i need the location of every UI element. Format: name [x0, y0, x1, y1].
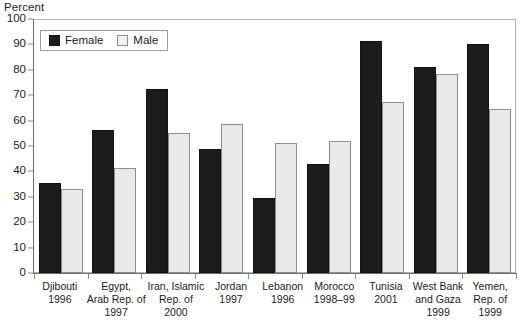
bar-female[interactable]	[146, 89, 168, 273]
x-axis-tick-mark	[248, 274, 249, 279]
x-axis-tick-mark	[195, 274, 196, 279]
bar-group	[248, 19, 302, 273]
x-axis-tick-mark	[516, 274, 517, 279]
legend-swatch-female-icon	[49, 35, 60, 46]
x-axis-tick-mark	[355, 274, 356, 279]
x-axis-category-label-line: 1997	[87, 306, 146, 319]
legend: Female Male	[40, 30, 168, 51]
x-axis-ticks	[34, 274, 516, 279]
bars-container	[34, 19, 516, 273]
y-axis-tick-label: 30	[13, 188, 26, 202]
y-axis-tick-label: 60	[13, 112, 26, 126]
y-axis-tick-label: 100	[7, 11, 26, 25]
bar-group	[34, 19, 88, 273]
y-axis-tick-label: 0	[20, 265, 26, 279]
legend-item-female[interactable]: Female	[49, 34, 103, 47]
bar-female[interactable]	[360, 41, 382, 273]
bar-male[interactable]	[489, 109, 511, 273]
bar-female[interactable]	[414, 67, 436, 273]
x-axis-category-label-line: Rep. of	[465, 293, 515, 306]
bar-male[interactable]	[114, 168, 136, 273]
bar-chart: Percent 0102030405060708090100 Djibouti1…	[0, 0, 527, 333]
bar-female[interactable]	[307, 164, 329, 273]
x-axis-tick-mark	[302, 274, 303, 279]
bar-group	[302, 19, 356, 273]
bar-group	[463, 19, 517, 273]
x-axis-category-label-line: Lebanon	[258, 280, 308, 293]
x-axis-labels: Djibouti1996Egypt,Arab Rep. of1997Iran, …	[34, 280, 516, 319]
x-axis-tick-mark	[462, 274, 463, 279]
x-axis-category-label-line: Djibouti	[35, 280, 85, 293]
x-axis-category-label: West Bankand Gaza1999	[412, 280, 465, 319]
bar-female[interactable]	[253, 198, 275, 273]
bar-group	[88, 19, 142, 273]
x-axis-category-label-line: Iran, Islamic	[148, 280, 205, 293]
x-axis-category-label-line: 2001	[361, 293, 411, 306]
x-axis-category-label: Lebanon1996	[257, 280, 309, 319]
bar-female[interactable]	[467, 44, 489, 273]
bar-male[interactable]	[275, 143, 297, 273]
y-axis-tick-label: 20	[13, 214, 26, 228]
x-axis-category-label-line: Egypt,	[87, 280, 146, 293]
x-axis-category-label-line: 1996	[35, 293, 85, 306]
bar-group	[409, 19, 463, 273]
bar-male[interactable]	[329, 141, 351, 273]
x-axis-category-label-line: 1997	[206, 293, 256, 306]
x-axis-category-label-line: 1996	[258, 293, 308, 306]
x-axis-category-label-line: 1999	[465, 306, 515, 319]
x-axis-tick-mark	[141, 274, 142, 279]
y-axis-tick-label: 40	[13, 163, 26, 177]
x-axis-category-label-line: West Bank	[413, 280, 464, 293]
bar-group	[355, 19, 409, 273]
x-axis-category-label-line: Arab Rep. of	[87, 293, 146, 306]
bar-group	[141, 19, 195, 273]
x-axis-category-label-line: 2000	[148, 306, 205, 319]
x-axis-category-label: Egypt,Arab Rep. of1997	[86, 280, 147, 319]
legend-label-male: Male	[133, 34, 158, 47]
bar-male[interactable]	[382, 102, 404, 273]
x-axis-category-label-line: and Gaza	[413, 293, 464, 306]
bar-male[interactable]	[221, 124, 243, 273]
x-axis-category-label: Jordan1997	[205, 280, 257, 319]
legend-item-male[interactable]: Male	[117, 34, 158, 47]
x-axis-category-label: Djibouti1996	[34, 280, 86, 319]
x-axis-tick-mark	[34, 274, 35, 279]
y-axis-tick-label: 90	[13, 36, 26, 50]
bar-female[interactable]	[92, 130, 114, 274]
x-axis-category-label-line: Yemen,	[465, 280, 515, 293]
x-axis-tick-mark	[409, 274, 410, 279]
legend-label-female: Female	[65, 34, 103, 47]
x-axis-category-label-line: Rep. of	[148, 293, 205, 306]
bar-male[interactable]	[61, 189, 83, 273]
bar-female[interactable]	[199, 149, 221, 273]
y-axis: 0102030405060708090100	[0, 19, 33, 273]
x-axis-category-label-line: 1999	[413, 306, 464, 319]
y-axis-tick-label: 70	[13, 87, 26, 101]
y-axis-tick-label: 50	[13, 138, 26, 152]
x-axis-category-label: Yemen,Rep. of1999	[464, 280, 516, 319]
x-axis-category-label-line: Jordan	[206, 280, 256, 293]
bar-female[interactable]	[39, 183, 61, 273]
x-axis-category-label-line: Morocco	[309, 280, 359, 293]
x-axis-category-label: Tunisia2001	[360, 280, 412, 319]
bar-male[interactable]	[168, 133, 190, 273]
y-axis-tick-label: 80	[13, 61, 26, 75]
x-axis-category-label: Iran, IslamicRep. of2000	[147, 280, 206, 319]
x-axis-category-label-line: 1998–99	[309, 293, 359, 306]
x-axis-category-label-line: Tunisia	[361, 280, 411, 293]
x-axis-tick-mark	[88, 274, 89, 279]
x-axis-category-label: Morocco1998–99	[308, 280, 360, 319]
bar-group	[195, 19, 249, 273]
legend-swatch-male-icon	[117, 35, 128, 46]
y-axis-tick-label: 10	[13, 239, 26, 253]
bar-male[interactable]	[436, 74, 458, 273]
